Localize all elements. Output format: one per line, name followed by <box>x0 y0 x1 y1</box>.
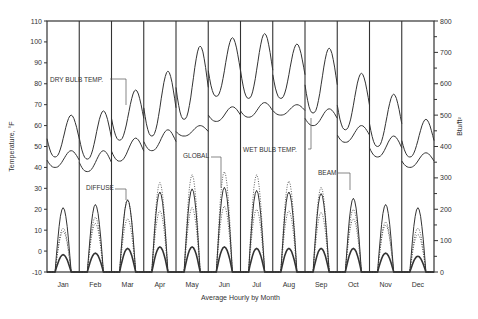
y2-tick-label: 500 <box>440 112 452 119</box>
x-tick-label: Jul <box>252 281 261 288</box>
y-tick-label: 40 <box>34 164 42 171</box>
undefined-label: GLOBAL <box>183 152 209 159</box>
x-tick-label: Nov <box>379 281 392 288</box>
y-tick-label: -10 <box>32 269 42 276</box>
y2-tick-label: 700 <box>440 49 452 56</box>
y-tick-label: 90 <box>34 59 42 66</box>
undefined-label: WET BULB TEMP. <box>243 146 297 153</box>
x-tick-label: May <box>186 281 200 289</box>
undefined-leader <box>211 157 221 188</box>
x-tick-label: Jan <box>57 281 68 288</box>
y-tick-label: 80 <box>34 80 42 87</box>
y-tick-label: 0 <box>38 248 42 255</box>
y-tick-label: 30 <box>34 185 42 192</box>
y2-tick-label: 100 <box>440 237 452 244</box>
x-tick-label: Feb <box>89 281 101 288</box>
undefined-leader <box>110 79 126 105</box>
y-tick-label: 10 <box>34 227 42 234</box>
x-tick-label: Sep <box>315 281 328 289</box>
undefined-label: DRY BULB TEMP. <box>50 76 103 83</box>
y2-tick-label: 0 <box>440 269 444 276</box>
y2-tick-label: 800 <box>440 18 452 25</box>
x-tick-label: Apr <box>154 281 166 289</box>
y-tick-label: 110 <box>31 18 42 25</box>
y-tick-label: 70 <box>34 101 42 108</box>
x-tick-label: Oct <box>348 281 359 288</box>
x-axis-label: Average Hourly by Month <box>201 294 280 302</box>
y2-axis-label: Btu/ft² <box>456 117 463 136</box>
chart-container: -100102030405060708090100110010020030040… <box>0 0 478 319</box>
undefined-leader <box>115 189 126 200</box>
x-tick-label: Dec <box>412 281 425 288</box>
x-tick-label: Aug <box>283 281 296 289</box>
y2-tick-label: 600 <box>440 80 452 87</box>
y-tick-label: 60 <box>34 122 42 129</box>
undefined-label: DIFFUSE <box>86 184 114 191</box>
y-tick-label: 20 <box>34 206 42 213</box>
chart-svg: -100102030405060708090100110010020030040… <box>0 0 478 319</box>
undefined-leader <box>338 173 350 190</box>
y2-tick-label: 200 <box>440 206 452 213</box>
x-tick-label: Mar <box>122 281 135 288</box>
x-tick-label: Jun <box>219 281 230 288</box>
y-tick-label: 50 <box>34 143 42 150</box>
y-axis-label: Temperature, °F <box>8 121 16 171</box>
undefined-label: BEAM <box>318 169 336 176</box>
y2-tick-label: 300 <box>440 174 452 181</box>
y-tick-label: 100 <box>30 38 42 45</box>
y2-tick-label: 400 <box>440 143 452 150</box>
